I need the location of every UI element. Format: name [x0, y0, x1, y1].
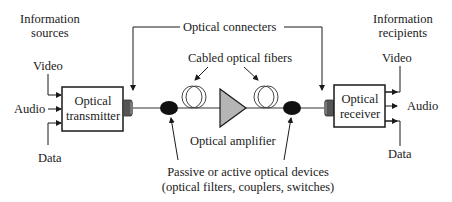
- input-audio-label: Audio: [14, 102, 45, 116]
- input-data-label: Data: [38, 151, 62, 165]
- fiber-coil-2: [254, 86, 278, 108]
- optical-receiver-label: Optical receiver: [334, 92, 386, 122]
- optical-devices-label: Passive or active optical devices (optic…: [148, 165, 348, 195]
- output-audio-label: Audio: [407, 99, 438, 113]
- output-arrows: [385, 66, 400, 146]
- cabled-fibers-label: Cabled optical fibers: [188, 51, 292, 65]
- optical-device-1: [160, 101, 178, 115]
- optical-transmitter-label: Optical transmitter: [62, 94, 124, 124]
- data-input-arrow: [48, 123, 61, 145]
- input-arrows: [48, 74, 61, 145]
- video-output-line: [385, 66, 400, 92]
- optical-connectors-label: Optical connecters: [183, 20, 276, 34]
- output-data-label: Data: [388, 147, 412, 161]
- video-input-arrow: [48, 74, 61, 95]
- transmitter-connector: [123, 100, 133, 116]
- output-video-label: Video: [382, 51, 412, 65]
- optical-amplifier-triangle: [220, 89, 246, 127]
- information-recipients-label: Information recipients: [373, 12, 433, 40]
- receiver-connector: [324, 100, 334, 116]
- optical-device-2: [283, 101, 301, 115]
- fiber-coil-1: [182, 86, 206, 108]
- optical-amplifier-label: Optical amplifier: [190, 134, 276, 148]
- information-sources-label: Information sources: [20, 12, 80, 40]
- fiber-label-arrows: [195, 67, 258, 80]
- data-output-line: [385, 121, 400, 146]
- input-video-label: Video: [33, 59, 63, 73]
